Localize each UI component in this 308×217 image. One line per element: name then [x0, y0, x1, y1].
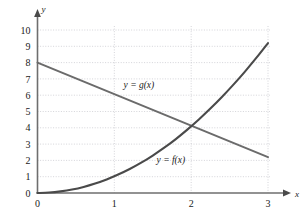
y-tick-label: 4	[26, 122, 31, 133]
y-tick-label: 1	[26, 171, 31, 182]
function-graph-svg: 012345678910 0123 y = f(x) y = g(x) x y	[0, 0, 308, 217]
x-tick-label: 2	[189, 198, 194, 209]
y-tick-label: 2	[26, 155, 31, 166]
x-tick-label: 0	[35, 198, 40, 209]
g-curve-label: y = g(x)	[123, 80, 155, 91]
y-axis-label: y	[41, 4, 46, 14]
chart-background	[0, 0, 308, 217]
x-tick-label: 1	[112, 198, 117, 209]
y-tick-label: 10	[21, 25, 31, 36]
y-tick-label: 9	[26, 41, 31, 52]
y-tick-label: 5	[26, 106, 31, 117]
x-axis-label: x	[294, 189, 299, 199]
graph-figure: 012345678910 0123 y = f(x) y = g(x) x y	[0, 0, 308, 217]
x-tick-label: 3	[266, 198, 271, 209]
y-tick-label: 8	[26, 57, 31, 68]
y-tick-label: 7	[26, 74, 31, 85]
y-tick-label: 0	[26, 188, 31, 199]
f-curve-label: y = f(x)	[156, 155, 186, 166]
y-tick-label: 6	[26, 90, 31, 101]
y-tick-label: 3	[26, 139, 31, 150]
